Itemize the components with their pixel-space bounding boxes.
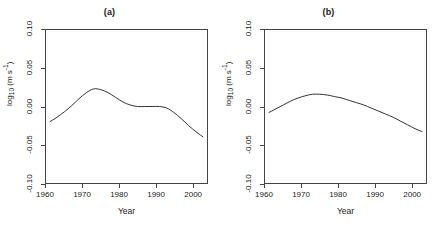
y-tick-label: 0.10 [25, 16, 34, 42]
y-tick-label: 0.00 [244, 93, 253, 119]
x-tick-label: 1990 [139, 190, 173, 199]
y-axis-unit-open: (m s [5, 70, 14, 88]
y-tick-mark [260, 29, 264, 30]
y-axis-log-subscript: 10 [227, 88, 234, 95]
y-axis-log-text: log [224, 95, 233, 106]
y-axis-unit-close: ) [224, 62, 233, 65]
x-tick-label: 1990 [358, 190, 392, 199]
y-tick-mark [41, 145, 45, 146]
y-tick-mark [260, 107, 264, 108]
panel-b-curve-svg [265, 30, 426, 183]
y-tick-mark [41, 29, 45, 30]
x-tick-mark [45, 184, 46, 188]
y-tick-mark [41, 107, 45, 108]
x-tick-mark [264, 184, 265, 188]
y-tick-label: 0.05 [244, 54, 253, 80]
y-tick-label: -0.05 [244, 132, 253, 158]
chart-panel-a: (a) log10 (m s-1) Year -0.10-0.050.000.0… [0, 0, 219, 236]
x-tick-label: 1980 [321, 190, 355, 199]
x-tick-label: 1970 [284, 190, 318, 199]
y-tick-label: 0.10 [244, 16, 253, 42]
y-axis-unit-exponent: -1 [221, 64, 228, 70]
x-tick-mark [412, 184, 413, 188]
y-axis-unit-close: ) [5, 62, 14, 65]
x-tick-mark [119, 184, 120, 188]
x-tick-mark [375, 184, 376, 188]
panel-a-curve-svg [46, 30, 207, 183]
panel-b-plot-area [264, 29, 427, 184]
x-tick-mark [156, 184, 157, 188]
x-tick-label: 1970 [65, 190, 99, 199]
chart-panel-b: (b) log10 (m s-1) Year -0.10-0.050.000.0… [219, 0, 438, 236]
y-tick-label: -0.05 [25, 132, 34, 158]
panel-b-y-axis-title: log10 (m s-1) [221, 94, 234, 106]
x-tick-mark [193, 184, 194, 188]
y-tick-mark [260, 68, 264, 69]
y-axis-unit-exponent: -1 [2, 64, 9, 70]
x-tick-mark [301, 184, 302, 188]
figure-root: (a) log10 (m s-1) Year -0.10-0.050.000.0… [0, 0, 438, 236]
panel-a-x-axis-title: Year [45, 206, 208, 216]
panel-a-y-axis-title: log10 (m s-1) [2, 94, 15, 106]
y-axis-log-text: log [5, 95, 14, 106]
y-axis-log-subscript: 10 [8, 88, 15, 95]
y-axis-unit-open: (m s [224, 70, 233, 88]
x-tick-label: 1960 [28, 190, 62, 199]
y-tick-mark [41, 68, 45, 69]
y-tick-label: 0.00 [25, 93, 34, 119]
x-tick-label: 2000 [395, 190, 429, 199]
panel-b-x-axis-title: Year [264, 206, 427, 216]
x-tick-label: 2000 [176, 190, 210, 199]
x-tick-label: 1960 [247, 190, 281, 199]
x-tick-label: 1980 [102, 190, 136, 199]
x-tick-mark [338, 184, 339, 188]
x-tick-mark [82, 184, 83, 188]
panel-a-plot-area [45, 29, 208, 184]
y-tick-label: 0.05 [25, 54, 34, 80]
smooth-trend-a [50, 89, 204, 137]
y-tick-mark [260, 145, 264, 146]
smooth-trend-b [269, 94, 423, 132]
